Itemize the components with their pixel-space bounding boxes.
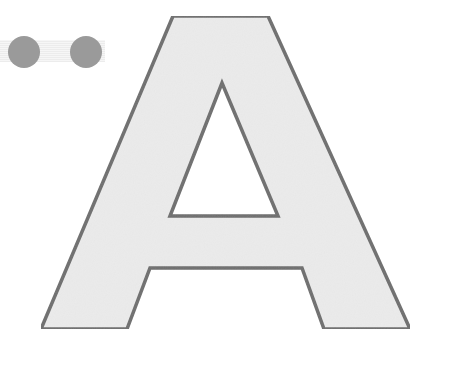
letter-a-outline [41,16,410,329]
letter-a-shape [0,0,449,366]
